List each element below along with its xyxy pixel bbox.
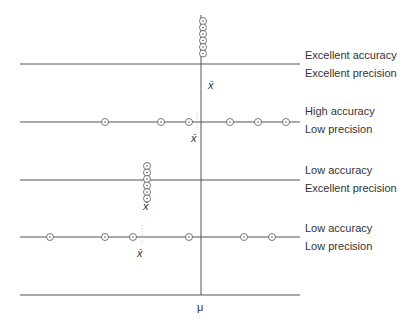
row-3-precision-label: Excellent precision [305, 182, 397, 194]
row-2-precision-label: Low precision [305, 123, 372, 135]
row-2-accuracy-label: High accuracy [305, 105, 375, 117]
row-4-precision-label: Low precision [305, 240, 372, 252]
row-2-mean-label: x̄ [191, 132, 197, 144]
row-4-mean-label: x̄ [137, 247, 143, 259]
row-3-accuracy-label: Low accuracy [305, 164, 372, 176]
row-4-accuracy-label: Low accuracy [305, 222, 372, 234]
row-1-precision-label: Excellent precision [305, 67, 397, 79]
true-value-label: μ [197, 301, 203, 313]
row-3-cluster [144, 163, 151, 203]
row-1-accuracy-label: Excellent accuracy [305, 49, 397, 61]
row-1-mean-label: x̄ [208, 79, 214, 91]
row-3-mean-label: x̄ [143, 200, 149, 212]
